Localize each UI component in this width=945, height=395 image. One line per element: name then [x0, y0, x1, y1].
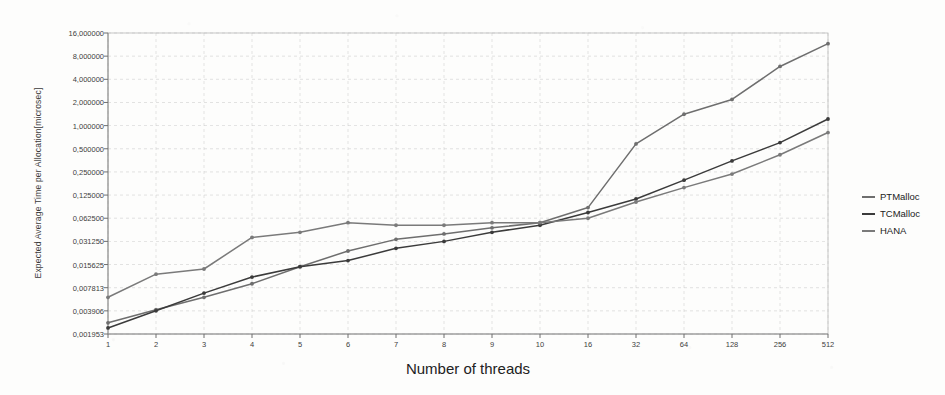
x-tick-label: 128	[726, 340, 739, 349]
x-tick-label: 16	[584, 340, 592, 349]
legend-label: HANA	[880, 225, 906, 236]
x-tick-label: 5	[298, 340, 302, 349]
y-axis-title: Expected Average Time per Allocation[mic…	[33, 53, 43, 313]
y-tick-label: 16,000000	[44, 29, 104, 38]
x-tick-label: 10	[536, 340, 544, 349]
x-tick-label: 256	[774, 340, 787, 349]
y-tick-label: 4,000000	[44, 75, 104, 84]
x-tick-label: 4	[250, 340, 254, 349]
y-tick-label: 8,000000	[44, 52, 104, 61]
chart-page: 16,0000008,0000004,0000002,0000001,00000…	[0, 0, 945, 395]
legend-line-icon	[862, 196, 875, 198]
plot-canvas	[0, 0, 945, 395]
x-tick-label: 1	[106, 340, 110, 349]
y-tick-label: 0,003906	[44, 306, 104, 315]
x-tick-label: 64	[680, 340, 688, 349]
x-tick-label: 6	[346, 340, 350, 349]
x-tick-label: 2	[154, 340, 158, 349]
legend-item-tcmalloc[interactable]: TCMalloc	[862, 205, 942, 222]
x-tick-label: 512	[822, 340, 835, 349]
x-tick-label: 8	[442, 340, 446, 349]
x-axis-title: Number of threads	[108, 360, 828, 377]
series-ptmalloc	[106, 42, 830, 325]
y-tick-label: 0,001953	[44, 330, 104, 339]
legend-item-hana[interactable]: HANA	[862, 222, 942, 239]
y-tick-label: 2,000000	[44, 98, 104, 107]
legend-label: TCMalloc	[880, 208, 920, 219]
legend-line-icon	[862, 230, 875, 232]
x-tick-label: 32	[632, 340, 640, 349]
series-hana	[106, 131, 830, 300]
chart-legend: PTMallocTCMallocHANA	[862, 188, 942, 239]
y-tick-label: 0,125000	[44, 191, 104, 200]
y-tick-label: 0,007813	[44, 283, 104, 292]
y-tick-label: 0,015625	[44, 260, 104, 269]
x-tick-label: 7	[394, 340, 398, 349]
y-tick-label: 0,250000	[44, 167, 104, 176]
legend-line-icon	[862, 213, 875, 215]
y-tick-label: 1,000000	[44, 121, 104, 130]
line-chart: 16,0000008,0000004,0000002,0000001,00000…	[0, 0, 945, 395]
x-tick-label: 9	[490, 340, 494, 349]
legend-item-ptmalloc[interactable]: PTMalloc	[862, 188, 942, 205]
legend-label: PTMalloc	[880, 191, 920, 202]
y-tick-label: 0,031250	[44, 237, 104, 246]
x-tick-label: 3	[202, 340, 206, 349]
y-axis-tick-labels: 16,0000008,0000004,0000002,0000001,00000…	[42, 0, 104, 395]
y-tick-label: 0,500000	[44, 144, 104, 153]
y-tick-label: 0,062500	[44, 214, 104, 223]
